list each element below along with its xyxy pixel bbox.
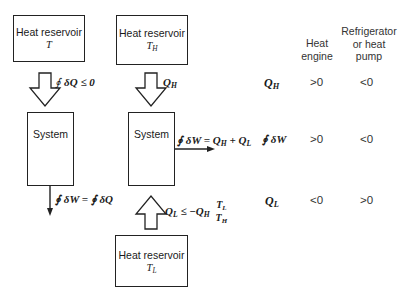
hot-heat-arrow [136, 73, 166, 106]
cell-work-engine: >0 [310, 133, 323, 145]
reservoir-label: Heat reservoir [117, 27, 187, 39]
cell-qh-fridge: <0 [360, 76, 373, 88]
reservoir-temp: TH [117, 40, 187, 55]
heat-arrow-label-left: ∮ δQ ≤ 0 [55, 76, 95, 89]
reservoir-temp: TL [116, 262, 187, 277]
cold-heat-label: QL ≤ −QH TL TH [165, 200, 227, 226]
system-label: System [28, 128, 73, 140]
row-label-ql: QL [265, 194, 279, 209]
hot-heat-label: QH [163, 76, 177, 90]
heat-reservoir-hot: Heat reservoir TH [116, 15, 188, 65]
work-arrow-label-right: ∮ δW = QH + QL [177, 134, 251, 148]
cell-ql-engine: <0 [310, 194, 323, 206]
reservoir-label: Heat reservoir [116, 249, 187, 261]
system-left: System [27, 112, 74, 186]
work-arrow-left-head [47, 208, 53, 216]
row-label-work: ∮ δW [262, 133, 286, 146]
system-right: System [128, 112, 175, 186]
cold-heat-arrow [136, 196, 166, 229]
cell-work-fridge: <0 [360, 133, 373, 145]
cell-qh-engine: >0 [310, 76, 323, 88]
row-label-qh: QH [264, 76, 279, 91]
heat-reservoir-left: Heat reservoir T [13, 15, 85, 62]
work-arrow-label-left: ∮ δW = ∮ δQ [55, 193, 113, 206]
system-label: System [129, 128, 174, 140]
reservoir-label: Heat reservoir [14, 26, 84, 38]
cell-ql-fridge: >0 [360, 194, 373, 206]
reservoir-temp: T [14, 39, 84, 51]
col-header-refrigerator: Refrigerator or heat pump [334, 25, 404, 63]
heat-reservoir-cold: Heat reservoir TL [115, 235, 188, 287]
